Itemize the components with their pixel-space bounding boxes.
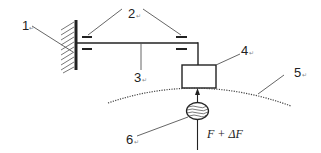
return-mark-icon: ↵ <box>142 77 147 83</box>
roller-body <box>187 103 209 120</box>
leader-6 <box>137 117 188 136</box>
label-beam: 3 <box>134 70 141 85</box>
return-mark-icon: ↵ <box>134 139 139 145</box>
fixed-wall <box>61 20 76 73</box>
leader-1 <box>32 26 73 52</box>
force-label: F + ΔF <box>206 127 243 141</box>
return-mark-icon: ↵ <box>136 13 141 19</box>
return-mark-icon: ↵ <box>302 72 307 78</box>
label-sensor-block: 4 <box>241 43 248 58</box>
leader-2a <box>88 9 122 35</box>
return-mark-icon: ↵ <box>29 25 34 31</box>
return-mark-icon: ↵ <box>249 50 254 56</box>
label-roller: 6 <box>126 132 133 147</box>
arrowhead-icon <box>195 88 200 95</box>
leader-5 <box>258 75 284 94</box>
label-bearings: 2 <box>128 6 135 21</box>
beam <box>77 42 198 65</box>
sensor-block <box>182 65 216 88</box>
leader-4 <box>216 54 240 65</box>
leader-2b <box>143 9 181 35</box>
leader-lines <box>32 9 284 136</box>
mechanical-diagram: 1 ↵ 2 ↵ 3 ↵ 4 ↵ 5 ↵ 6 ↵ F + ΔF <box>0 0 321 153</box>
label-surface: 5 <box>294 65 301 80</box>
